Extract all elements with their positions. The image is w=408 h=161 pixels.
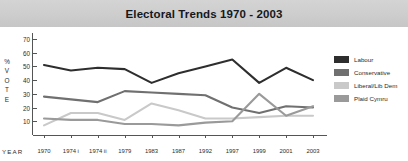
legend-item[interactable]: Plaid Cymru <box>334 92 406 105</box>
chart-page: Electoral Trends 1970 - 2003 % V O T E 7… <box>0 0 408 161</box>
legend-label: Labour <box>354 56 373 63</box>
y-axis-tick-label: 30 <box>10 91 30 98</box>
legend-item[interactable]: Conservative <box>334 66 406 79</box>
legend-label: Plaid Cymru <box>354 95 388 102</box>
legend-item[interactable]: Labour <box>334 53 406 66</box>
legend-swatch <box>334 82 349 89</box>
x-axis-tick-label: 1979 <box>118 148 131 154</box>
x-axis-tick-label: 1970 <box>37 148 50 154</box>
y-axis-tick-labels: 70605040302010 <box>8 33 30 138</box>
y-axis-tick-label: 40 <box>10 77 30 84</box>
series-lines <box>32 33 327 138</box>
x-axis-tick-label: 2001 <box>280 148 293 154</box>
series-line <box>44 103 313 125</box>
x-axis-tick-label: 1974 i <box>63 148 79 154</box>
x-axis-tick-label: 1997 <box>226 148 239 154</box>
legend-swatch <box>334 56 349 63</box>
x-axis-tick-labels: 19701974 i1974 ii19791983198719921997199… <box>32 148 332 159</box>
legend: LabourConservativeLiberal/Lib DemPlaid C… <box>334 53 406 105</box>
x-axis-tick-label: 1992 <box>199 148 212 154</box>
x-axis-tick-label: 1999 <box>253 148 266 154</box>
legend-item[interactable]: Liberal/Lib Dem <box>334 79 406 92</box>
page-title: Electoral Trends 1970 - 2003 <box>0 0 408 27</box>
y-axis-tick-label: 20 <box>10 105 30 112</box>
y-axis-tick-label: 10 <box>10 118 30 125</box>
legend-swatch <box>334 95 349 102</box>
x-axis-tick-label: 2003 <box>306 148 319 154</box>
x-axis-tick-label: 1987 <box>172 148 185 154</box>
legend-label: Conservative <box>354 69 390 76</box>
title-banner: Electoral Trends 1970 - 2003 <box>0 0 408 27</box>
x-axis-caption: YEAR <box>2 148 23 155</box>
legend-label: Liberal/Lib Dem <box>354 82 397 89</box>
y-axis-tick-label: 70 <box>10 36 30 43</box>
plot-area <box>32 33 327 138</box>
legend-swatch <box>334 69 349 76</box>
series-line <box>44 60 313 83</box>
x-axis-tick-label: 1974 ii <box>89 148 106 154</box>
y-axis-tick-label: 60 <box>10 50 30 57</box>
y-axis-tick-label: 50 <box>10 63 30 70</box>
x-axis-tick-label: 1983 <box>145 148 158 154</box>
